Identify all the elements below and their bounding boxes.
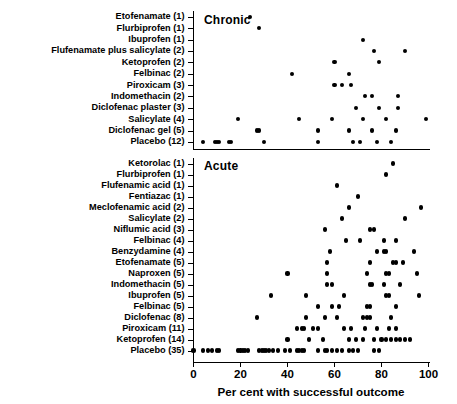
x-axis-title: Per cent with successful outcome — [218, 385, 405, 398]
category-label: Indomethacin (2) — [111, 91, 185, 101]
data-point — [321, 337, 325, 341]
data-point — [372, 49, 376, 53]
data-point — [389, 140, 393, 144]
data-point — [415, 271, 419, 275]
y-axis-tick — [188, 329, 193, 330]
data-point — [297, 117, 301, 121]
y-axis-tick — [188, 108, 193, 109]
panel-title-chronic-panel: Chronic — [204, 13, 251, 27]
data-point — [330, 304, 334, 308]
data-point — [311, 326, 315, 330]
category-label: Salicylate (4) — [128, 114, 184, 124]
y-axis-tick — [188, 274, 193, 275]
data-point — [316, 128, 320, 132]
data-point — [325, 348, 329, 352]
data-point — [325, 282, 329, 286]
data-point — [257, 128, 261, 132]
data-point — [384, 117, 388, 121]
data-point — [389, 315, 393, 319]
data-point — [302, 326, 306, 330]
data-point — [403, 49, 407, 53]
y-axis-tick — [188, 51, 193, 52]
y-axis-tick — [188, 28, 193, 29]
y-axis-tick — [188, 230, 193, 231]
data-point — [325, 271, 329, 275]
data-point — [340, 216, 344, 220]
data-point — [325, 260, 329, 264]
category-label: Indomethacin (5) — [111, 279, 185, 289]
data-point — [370, 94, 374, 98]
category-label: Niflumic acid (3) — [114, 224, 185, 234]
y-axis-tick — [188, 263, 193, 264]
data-point — [323, 227, 327, 231]
category-label: Felbinac (4) — [133, 235, 184, 245]
data-point — [375, 326, 379, 330]
category-label: Ibuprofen (1) — [128, 34, 184, 44]
y-axis-tick — [188, 74, 193, 75]
data-point — [295, 326, 299, 330]
data-point — [354, 106, 358, 110]
data-point — [403, 337, 407, 341]
data-point — [361, 117, 365, 121]
category-label: Piroxicam (3) — [127, 80, 185, 90]
data-point — [419, 205, 423, 209]
data-point — [335, 315, 339, 319]
category-label: Felbinac (2) — [133, 68, 184, 78]
data-point — [403, 216, 407, 220]
x-axis-tick-label: 100 — [419, 368, 438, 380]
y-axis-tick — [188, 186, 193, 187]
y-axis-tick — [188, 307, 193, 308]
data-point — [285, 271, 289, 275]
data-point — [330, 348, 334, 352]
data-point — [377, 348, 381, 352]
data-point — [347, 205, 351, 209]
data-point — [323, 315, 327, 319]
data-point — [375, 140, 379, 144]
data-point — [375, 249, 379, 253]
data-point — [391, 161, 395, 165]
data-point — [290, 72, 294, 76]
y-axis-tick — [188, 318, 193, 319]
data-point — [377, 60, 381, 64]
data-point — [398, 282, 402, 286]
data-point — [382, 282, 386, 286]
y-axis-tick — [188, 17, 193, 18]
data-point — [361, 38, 365, 42]
category-label: Piroxicam (11) — [122, 323, 184, 333]
data-point — [206, 348, 210, 352]
data-point — [201, 140, 205, 144]
y-axis-tick — [188, 175, 193, 176]
data-point — [342, 326, 346, 330]
data-point — [384, 337, 388, 341]
data-point — [304, 293, 308, 297]
data-point — [347, 72, 351, 76]
data-point — [394, 326, 398, 330]
data-point — [335, 348, 339, 352]
data-point — [394, 260, 398, 264]
data-point — [347, 128, 351, 132]
category-label: Flurbiprofen (1) — [117, 23, 185, 33]
data-point — [342, 293, 346, 297]
data-point — [363, 94, 367, 98]
data-point — [191, 348, 195, 352]
y-axis-tick — [188, 62, 193, 63]
data-point — [396, 94, 400, 98]
x-axis-tick — [428, 362, 429, 367]
data-point — [384, 249, 388, 253]
data-point — [283, 348, 287, 352]
data-point — [356, 194, 360, 198]
data-point — [236, 117, 240, 121]
category-label: Fentiazac (1) — [129, 191, 185, 201]
data-point — [372, 348, 376, 352]
category-label: Placebo (35) — [130, 345, 184, 355]
data-point — [349, 83, 353, 87]
category-label: Meclofenamic acid (2) — [89, 202, 184, 212]
data-point — [358, 140, 362, 144]
data-point — [384, 172, 388, 176]
data-point — [398, 337, 402, 341]
category-label: Flufenamate plus salicylate (2) — [51, 45, 184, 55]
data-point — [271, 348, 275, 352]
category-label: Diclofenac (8) — [124, 312, 184, 322]
x-axis-tick-label: 60 — [328, 368, 341, 380]
data-point — [229, 140, 233, 144]
